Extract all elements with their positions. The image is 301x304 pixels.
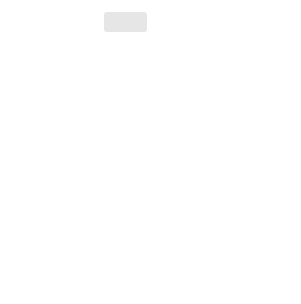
function-label-bubble [104,12,147,32]
function-graph [0,0,301,150]
